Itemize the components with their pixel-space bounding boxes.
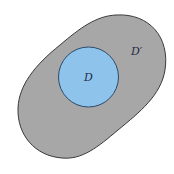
region-diagram: D D′	[0, 0, 174, 174]
label-d-prime: D′	[130, 45, 143, 58]
diagram-svg: D D′	[0, 0, 174, 174]
label-d: D	[83, 71, 93, 84]
